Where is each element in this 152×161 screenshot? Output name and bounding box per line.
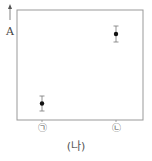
x-tick-label-2: ㉡	[112, 123, 121, 133]
data-point-1	[40, 96, 45, 111]
y-axis-arrow-icon	[8, 4, 12, 20]
data-point-2	[114, 26, 119, 42]
x-tick-label-1: ㉠	[38, 123, 47, 133]
plot-frame	[17, 10, 143, 120]
y-axis-label: A	[5, 25, 15, 38]
figure-caption: (나)	[0, 137, 152, 153]
